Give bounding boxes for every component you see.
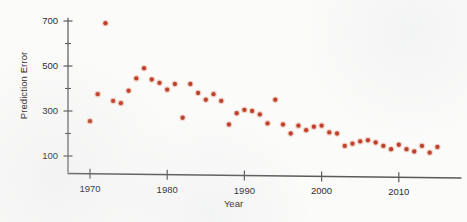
scatter-chart: Prediction Error 10030050070019701980199… [0, 0, 467, 222]
x-axis-tick-label: 2000 [302, 185, 342, 196]
data-point [111, 99, 115, 103]
data-point [142, 66, 146, 70]
data-point [119, 101, 123, 105]
data-point [157, 81, 161, 85]
data-point [358, 139, 362, 143]
data-point [350, 141, 354, 145]
data-point [219, 99, 223, 103]
data-point [312, 125, 316, 129]
data-point-group [87, 20, 441, 156]
data-point [397, 143, 401, 147]
y-axis-tick-label: 300 [28, 105, 58, 116]
data-point [289, 131, 293, 135]
data-point [165, 87, 169, 91]
data-point [381, 144, 385, 148]
data-point [327, 130, 331, 134]
data-point [412, 149, 416, 153]
data-point [273, 98, 277, 102]
data-point [180, 116, 184, 120]
data-point [373, 140, 377, 144]
x-axis-tick-label: 1990 [224, 185, 264, 196]
data-point [420, 144, 424, 148]
data-point [250, 109, 254, 113]
y-axis-tick-label: 100 [28, 150, 58, 161]
data-point [335, 131, 339, 135]
data-point [188, 82, 192, 86]
data-point [211, 92, 215, 96]
data-point [103, 21, 107, 25]
x-axis-tick-label: 2010 [379, 186, 419, 197]
data-point [96, 92, 100, 96]
y-axis-tick-label: 500 [28, 60, 58, 71]
x-axis-tick-label: 1970 [70, 183, 110, 194]
data-point [150, 77, 154, 81]
data-point [304, 128, 308, 132]
x-axis-spine [68, 174, 461, 179]
data-point [265, 121, 269, 125]
data-point [196, 91, 200, 95]
data-point [389, 147, 393, 151]
data-point [296, 123, 300, 127]
data-point [428, 150, 432, 154]
data-point [88, 119, 92, 123]
y-axis-tick-label: 700 [28, 15, 58, 26]
data-point [366, 138, 370, 142]
data-point [204, 98, 208, 102]
data-point [227, 122, 231, 126]
data-point [126, 89, 130, 93]
data-point [435, 145, 439, 149]
data-point [281, 122, 285, 126]
data-point [404, 147, 408, 151]
data-point [343, 144, 347, 148]
data-point [258, 112, 262, 116]
data-point [319, 123, 323, 127]
data-point [242, 108, 246, 112]
data-point [134, 76, 138, 80]
x-axis-label: Year [0, 198, 467, 209]
data-point [235, 111, 239, 115]
data-point [173, 82, 177, 86]
x-axis-tick-label: 1980 [147, 184, 187, 195]
